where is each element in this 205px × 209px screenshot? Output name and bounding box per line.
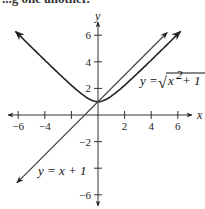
radical-sign-icon: √ xyxy=(158,74,167,91)
y-tick-label: 2 xyxy=(86,82,92,94)
equation-sqrt-lhs: y = xyxy=(138,73,158,88)
chart-plot: −6−4246−6−2246 x y y = √ x 2 + 1 y = x +… xyxy=(0,0,205,209)
x-tick-label: 6 xyxy=(175,120,181,132)
labels-group: x y y = √ x 2 + 1 y = x + 1 xyxy=(36,9,205,178)
equation-label-sqrt: y = √ x 2 + 1 xyxy=(138,67,205,91)
x-axis-label: x xyxy=(196,108,203,122)
y-axis-label: y xyxy=(94,9,101,23)
equation-label-line: y = x + 1 xyxy=(36,163,87,178)
x-tick-label: −6 xyxy=(12,120,24,132)
x-tick-label: −4 xyxy=(39,120,51,132)
equation-sqrt-radicand: x xyxy=(167,73,174,88)
y-tick-label: −2 xyxy=(79,136,91,148)
x-tick-label: 4 xyxy=(148,120,154,132)
axes: −6−4246−6−2246 xyxy=(8,22,192,206)
x-tick-label: 2 xyxy=(122,120,128,132)
y-tick-label: −6 xyxy=(79,189,91,201)
y-tick-label: 6 xyxy=(86,29,92,41)
equation-sqrt-rest: + 1 xyxy=(182,73,201,88)
y-tick-label: 4 xyxy=(86,56,92,68)
